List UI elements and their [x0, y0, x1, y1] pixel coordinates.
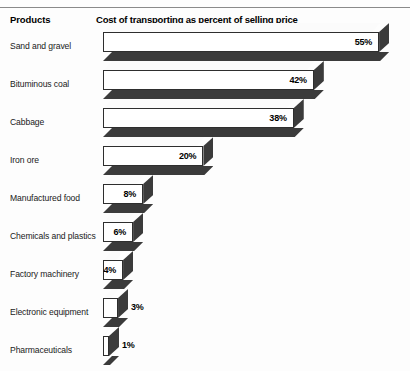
bar-front-face: 8%	[103, 184, 143, 204]
category-label: Sand and gravel	[10, 41, 71, 51]
bar-front-face: 4%	[103, 260, 123, 280]
bar-front-face	[103, 336, 109, 356]
chart-page: Products Cost of transporting as percent…	[0, 0, 410, 371]
bar-bottom-face	[103, 280, 133, 289]
bar-3d[interactable]: 1%	[103, 336, 109, 366]
bar-3d[interactable]: 42%	[103, 70, 314, 100]
category-label: Factory machinery	[10, 269, 79, 279]
bar-value-label: 8%	[124, 189, 137, 199]
products-column-header: Products	[10, 14, 50, 25]
category-label: Cabbage	[10, 117, 44, 127]
bar-front-face: 20%	[103, 146, 203, 166]
chart-row: Pharmaceuticals1%	[0, 334, 410, 371]
chart-row: Chemicals and plastics6%	[0, 220, 410, 258]
bar-value-label: 3%	[131, 302, 144, 312]
bar-bottom-face	[103, 90, 324, 99]
bar-value-label: 1%	[122, 340, 135, 350]
plot-area: Sand and gravel55%Bituminous coal42%Cabb…	[0, 30, 410, 371]
bar-value-label: 42%	[289, 75, 306, 85]
category-label: Iron ore	[10, 155, 39, 165]
bar-value-label: 20%	[179, 151, 196, 161]
bar-bottom-face	[103, 166, 213, 175]
category-label: Bituminous coal	[10, 79, 69, 89]
bar-front-face: 6%	[103, 222, 133, 242]
bar-bottom-face	[103, 128, 304, 137]
chart-row: Iron ore20%	[0, 144, 410, 182]
bar-3d[interactable]: 3%	[103, 298, 118, 328]
bar-front-face: 55%	[103, 32, 379, 52]
bar-3d[interactable]: 4%	[103, 260, 123, 290]
bar-bottom-face	[103, 318, 128, 327]
bar-value-label: 6%	[114, 227, 127, 237]
bar-3d[interactable]: 20%	[103, 146, 203, 176]
category-label: Chemicals and plastics	[10, 231, 96, 241]
bar-bottom-face	[103, 356, 119, 365]
bar-3d[interactable]: 8%	[103, 184, 143, 214]
bar-3d[interactable]: 38%	[103, 108, 294, 138]
bar-3d[interactable]: 6%	[103, 222, 133, 252]
chart-row: Electronic equipment3%	[0, 296, 410, 334]
top-divider-rule	[0, 7, 410, 8]
bar-bottom-face	[103, 242, 143, 251]
bar-value-label: 55%	[355, 37, 372, 47]
category-label: Pharmaceuticals	[10, 345, 72, 355]
bar-bottom-face	[103, 204, 153, 213]
chart-row: Manufactured food8%	[0, 182, 410, 220]
bar-bottom-face	[103, 52, 389, 61]
chart-row: Cabbage38%	[0, 106, 410, 144]
chart-row: Factory machinery4%	[0, 258, 410, 296]
bar-front-face: 42%	[103, 70, 314, 90]
category-label: Electronic equipment	[10, 307, 88, 317]
bar-value-label: 4%	[103, 265, 116, 275]
bar-value-label: 38%	[269, 113, 286, 123]
bar-front-face: 38%	[103, 108, 294, 128]
bar-front-face	[103, 298, 118, 318]
category-label: Manufactured food	[10, 193, 80, 203]
bar-3d[interactable]: 55%	[103, 32, 379, 62]
